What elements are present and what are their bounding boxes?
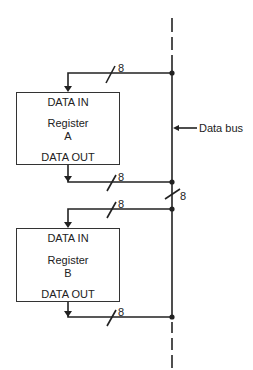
junction-dot xyxy=(169,70,174,75)
reg-b-id: B xyxy=(17,267,119,279)
junction-dot xyxy=(169,206,174,211)
reg-a-in-wire xyxy=(68,73,172,88)
reg-a-in-slash xyxy=(106,66,115,83)
reg-b-out-width: 8 xyxy=(118,306,124,318)
data-bus-label: Data bus xyxy=(199,122,243,134)
reg-b-in-slash xyxy=(107,202,116,218)
reg-b-data-in-label: DATA IN xyxy=(17,232,119,244)
reg-b-out-slash xyxy=(107,310,116,326)
reg-b-in-wire xyxy=(68,209,172,224)
reg-a-name: Register xyxy=(17,117,119,129)
reg-a-out-width: 8 xyxy=(118,171,124,183)
reg-b-name: Register xyxy=(17,254,119,266)
bus-width-label: 8 xyxy=(180,190,186,202)
junction-dot xyxy=(169,179,174,184)
reg-b-data-out-label: DATA OUT xyxy=(17,288,119,300)
arrow-b-out-icon xyxy=(64,311,72,317)
diagram-wiring xyxy=(0,0,253,370)
reg-a-id: A xyxy=(17,130,119,142)
reg-a-out-slash xyxy=(107,175,116,191)
register-b-box: DATA IN Register B DATA OUT xyxy=(16,228,120,302)
reg-a-data-out-label: DATA OUT xyxy=(17,151,119,163)
reg-a-data-in-label: DATA IN xyxy=(17,96,119,108)
reg-b-in-width: 8 xyxy=(118,198,124,210)
junction-dot xyxy=(169,314,174,319)
register-a-box: DATA IN Register A DATA OUT xyxy=(16,92,120,165)
reg-a-in-width: 8 xyxy=(118,62,124,74)
arrow-bus-pointer-icon xyxy=(173,125,179,131)
arrow-a-out-icon xyxy=(64,176,72,182)
